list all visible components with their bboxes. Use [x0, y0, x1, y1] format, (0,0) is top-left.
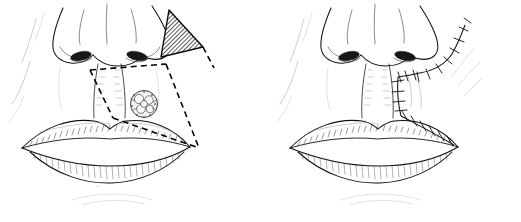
surgical-illustration-figure	[0, 0, 521, 222]
lower-lip-post	[290, 147, 458, 183]
illustration-canvas	[0, 0, 521, 222]
chin-contour-post	[340, 194, 420, 205]
nostril-right-post	[394, 50, 416, 63]
perialar-suture-line	[417, 18, 471, 82]
upper-lip-hatching	[30, 125, 183, 146]
chin-contour	[72, 186, 152, 205]
nostril-left	[70, 50, 92, 63]
upper-lip	[22, 120, 190, 148]
flap-triangle	[161, 10, 203, 57]
panel-preoperative-plan	[9, 4, 214, 205]
lesion	[131, 91, 158, 118]
nose-outline-post	[321, 4, 438, 66]
cheek-contour-left-post	[277, 13, 312, 122]
cheek-contour-right-post	[452, 30, 482, 95]
upper-lip-hatching-post	[298, 125, 451, 146]
vertical-suture-line	[392, 77, 407, 116]
panel-postoperative-result	[277, 4, 482, 205]
upper-lip-post	[290, 120, 458, 148]
nostril-left-post	[338, 50, 360, 63]
cheek-contour-left	[9, 13, 44, 122]
lower-lip	[22, 147, 190, 183]
nose-outline	[53, 4, 170, 66]
nostril-right	[126, 50, 148, 63]
